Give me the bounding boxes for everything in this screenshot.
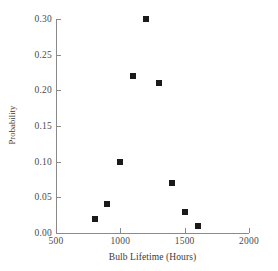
- x-axis-tick: [56, 228, 57, 233]
- y-axis-tick-label: 0.25: [0, 50, 52, 60]
- y-axis-tick: [57, 90, 61, 91]
- x-axis-tick-label: 1000: [98, 236, 142, 247]
- data-point: [117, 159, 123, 165]
- y-axis-tick-label: 0.05: [0, 192, 52, 202]
- y-axis-title: Probability: [7, 80, 17, 170]
- y-axis-tick: [57, 233, 61, 234]
- data-point: [92, 216, 98, 222]
- y-axis-tick: [57, 55, 61, 56]
- data-point: [143, 16, 149, 22]
- y-axis-tick: [57, 19, 61, 20]
- x-axis-tick: [120, 228, 121, 233]
- data-point: [169, 180, 175, 186]
- x-axis-tick-label: 2000: [227, 236, 271, 247]
- data-point: [182, 209, 188, 215]
- x-axis-tick-label: 500: [34, 236, 78, 247]
- data-point: [156, 80, 162, 86]
- x-axis-line: [56, 233, 249, 234]
- y-axis-tick: [57, 197, 61, 198]
- x-axis-tick-label: 1500: [163, 236, 207, 247]
- data-point: [104, 201, 110, 207]
- x-axis-title: Bulb Lifetime (Hours): [56, 252, 249, 262]
- x-axis-tick: [185, 228, 186, 233]
- data-point: [130, 73, 136, 79]
- data-point: [195, 223, 201, 229]
- y-axis-tick: [57, 162, 61, 163]
- x-axis-tick: [249, 228, 250, 233]
- y-axis-tick-label: 0.30: [0, 14, 52, 24]
- scatter-chart: 0.000.050.100.150.200.250.30 50010001500…: [0, 0, 278, 271]
- y-axis-tick: [57, 126, 61, 127]
